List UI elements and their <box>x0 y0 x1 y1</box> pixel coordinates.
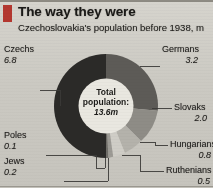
center-total-value: 13.6m <box>78 107 134 117</box>
chart-figure: The way they were Czechoslovakia's popul… <box>0 0 213 188</box>
donut-chart: Total population: 13.6m Czechs 6.8 Germa… <box>0 38 213 188</box>
brand-mark-icon <box>3 5 12 22</box>
label-ruthenians: Ruthenians 0.5 <box>166 165 212 186</box>
label-poles: Poles 0.1 <box>4 130 27 151</box>
label-poles-name: Poles <box>4 130 27 140</box>
chart-title: The way they were <box>18 4 136 19</box>
label-jews: Jews 0.2 <box>4 156 25 177</box>
label-czechs-name: Czechs <box>4 44 34 54</box>
label-hungarians: Hungarians 0.8 <box>170 139 213 160</box>
chart-subtitle: Czechoslovakia's population before 1938,… <box>18 22 204 33</box>
label-ruthenians-name: Ruthenians <box>166 165 212 175</box>
chart-header: The way they were Czechoslovakia's popul… <box>0 3 213 37</box>
label-jews-value: 0.2 <box>4 167 25 178</box>
label-hungarians-name: Hungarians <box>170 139 213 149</box>
label-germans-value: 3.2 <box>162 55 198 66</box>
label-slovaks: Slovaks 2.0 <box>174 102 207 123</box>
label-germans: Germans 3.2 <box>162 44 199 65</box>
label-slovaks-name: Slovaks <box>174 102 206 112</box>
label-jews-name: Jews <box>4 156 25 166</box>
label-czechs-value: 6.8 <box>4 55 34 66</box>
label-germans-name: Germans <box>162 44 199 54</box>
label-poles-value: 0.1 <box>4 141 27 152</box>
bottom-rule <box>0 186 213 187</box>
top-rule <box>0 0 213 2</box>
label-slovaks-value: 2.0 <box>174 113 207 124</box>
label-czechs: Czechs 6.8 <box>4 44 34 65</box>
label-ruthenians-value: 0.5 <box>166 176 210 187</box>
label-hungarians-value: 0.8 <box>170 150 211 161</box>
center-total: Total population: 13.6m <box>78 88 134 117</box>
center-total-line2: population: <box>78 98 134 108</box>
